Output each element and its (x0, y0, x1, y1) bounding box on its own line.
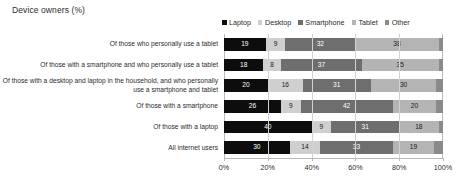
legend-item-desktop: Desktop (258, 19, 291, 26)
bar-value-label: 31 (333, 82, 340, 89)
bar-row: 40931182 (224, 121, 443, 134)
bar-value-label: 37 (318, 62, 325, 69)
bar-row: 301433194 (224, 141, 443, 154)
x-axis-tick (224, 158, 225, 161)
bar-segment-laptop: 18 (224, 59, 263, 72)
bar-segment-tablet: 30 (371, 79, 437, 92)
chart-legend: LaptopDesktopSmartphoneTabletOther (222, 19, 410, 26)
bar-segment-desktop: 14 (290, 141, 321, 154)
bar-value-label: 32 (317, 41, 324, 48)
legend-swatch-icon (385, 20, 390, 25)
bar-value-label: 14 (301, 144, 308, 151)
bar-value-label: 30 (253, 144, 260, 151)
chart-title: Device owners (%) (12, 5, 85, 15)
bar-segment-other: 2 (439, 121, 443, 134)
bar-rows: 1993238218837352201631303269422034093118… (224, 34, 443, 158)
bar-segment-smartphone: 32 (285, 38, 355, 51)
x-axis-tick-label: 0% (219, 163, 229, 172)
legend-swatch-icon (352, 20, 357, 25)
bar-segment-tablet: 38 (355, 38, 438, 51)
bar-value-label: 9 (320, 124, 324, 131)
legend-item-smartphone: Smartphone (298, 19, 344, 26)
gridline (355, 34, 356, 158)
legend-swatch-icon (222, 20, 227, 25)
bar-value-label: 16 (282, 82, 289, 89)
bar-segment-desktop: 8 (263, 59, 281, 72)
bar-value-label: 30 (400, 82, 407, 89)
stacked-bar-chart: Device owners (%) LaptopDesktopSmartphon… (0, 0, 458, 187)
category-label: Of those with a laptop (153, 117, 218, 138)
category-label: Of those with a smartphone (136, 96, 218, 117)
legend-item-tablet: Tablet (352, 19, 378, 26)
category-label-text: Of those who personally use a tablet (110, 40, 218, 48)
legend-item-label: Laptop (229, 19, 251, 26)
x-axis-tick (312, 158, 313, 161)
legend-item-label: Smartphone (305, 19, 344, 26)
bar-segment-smartphone: 31 (303, 79, 371, 92)
bar-segment-laptop: 19 (224, 38, 266, 51)
x-axis-tick (355, 158, 356, 161)
x-axis-tick (268, 158, 269, 161)
bar-row: 18837352 (224, 59, 443, 72)
bar-segment-laptop: 20 (224, 79, 268, 92)
bar-row: 26942203 (224, 100, 443, 113)
legend-item-label: Tablet (359, 19, 378, 26)
bar-value-label: 8 (270, 62, 274, 69)
bar-segment-other: 2 (439, 59, 443, 72)
category-label-text: Of those with a smartphone and who perso… (40, 61, 218, 69)
legend-swatch-icon (258, 20, 263, 25)
bar-segment-other: 3 (436, 100, 443, 113)
bar-segment-smartphone: 42 (301, 100, 393, 113)
x-axis-line (224, 158, 443, 159)
bar-segment-tablet: 35 (362, 59, 439, 72)
category-label: Of those who personally use a tablet (110, 34, 218, 55)
bar-segment-smartphone: 37 (281, 59, 362, 72)
bar-segment-desktop: 9 (281, 100, 301, 113)
bar-segment-tablet: 18 (399, 121, 438, 134)
bar-value-label: 9 (274, 41, 278, 48)
category-label-text: Of those with a laptop (153, 123, 218, 131)
bar-value-label: 20 (242, 82, 249, 89)
bar-segment-desktop: 16 (268, 79, 303, 92)
bar-segment-other: 4 (434, 141, 443, 154)
bar-segment-smartphone: 31 (331, 121, 399, 134)
legend-item-laptop: Laptop (222, 19, 251, 26)
bar-value-label: 26 (249, 103, 256, 110)
bar-segment-desktop: 9 (312, 121, 332, 134)
gridline (268, 34, 269, 158)
bar-value-label: 42 (343, 103, 350, 110)
legend-item-label: Other (392, 19, 410, 26)
bar-value-label: 19 (241, 41, 248, 48)
x-axis-tick (399, 158, 400, 161)
category-label: Of those with a desktop and laptop in th… (0, 75, 218, 96)
bar-segment-other: 2 (439, 38, 443, 51)
bar-value-label: 33 (353, 144, 360, 151)
x-axis-tick-label: 60% (348, 163, 362, 172)
gridline (399, 34, 400, 158)
legend-item-label: Desktop (265, 19, 291, 26)
bar-segment-laptop: 26 (224, 100, 281, 113)
x-axis-tick-label: 40% (304, 163, 318, 172)
x-axis-tick (443, 158, 444, 161)
category-label-text: All internet users (168, 144, 218, 152)
category-label: Of those with a smartphone and who perso… (40, 55, 218, 76)
bar-value-label: 19 (410, 144, 417, 151)
x-axis-tick-label: 100% (434, 163, 452, 172)
legend-swatch-icon (298, 20, 303, 25)
legend-item-other: Other (385, 19, 410, 26)
category-label-text: Of those with a desktop and laptop in th… (0, 77, 218, 93)
bar-value-label: 18 (415, 124, 422, 131)
bar-segment-laptop: 30 (224, 141, 290, 154)
bar-value-label: 18 (240, 62, 247, 69)
plot-area: 1993238218837352201631303269422034093118… (224, 34, 443, 158)
bar-value-label: 31 (362, 124, 369, 131)
category-axis-labels: Of those who personally use a tabletOf t… (0, 34, 222, 158)
category-label-text: Of those with a smartphone (136, 102, 218, 110)
gridline (312, 34, 313, 158)
x-axis-tick-label: 20% (261, 163, 275, 172)
bar-row: 19932382 (224, 38, 443, 51)
category-label: All internet users (168, 137, 218, 158)
bar-segment-other: 3 (436, 79, 443, 92)
bar-value-label: 35 (397, 62, 404, 69)
bar-value-label: 20 (411, 103, 418, 110)
